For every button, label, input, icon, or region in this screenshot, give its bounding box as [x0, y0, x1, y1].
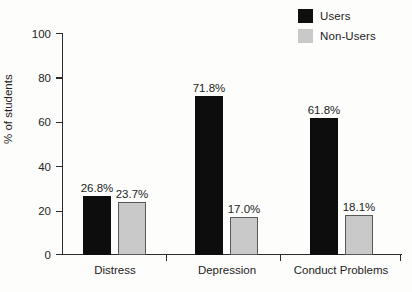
bar-value-depression-users: 71.8% [193, 82, 226, 94]
bar-value-distress-non-users: 23.7% [116, 188, 149, 200]
legend-label-users: Users [320, 10, 351, 22]
y-axis-line [62, 33, 63, 255]
x-tick-3 [400, 255, 401, 261]
plot-area: 100 80 60 40 20 0 26.8% 23.7% 71.8% [62, 33, 402, 255]
y-tick-80: 80 [56, 77, 62, 78]
y-axis-title: % of students [2, 74, 14, 144]
y-tick-0: 0 [56, 254, 62, 255]
x-axis-label-depression: Depression [198, 264, 256, 276]
bar-value-conduct-problems-users: 61.8% [308, 104, 341, 116]
y-tick-label-80: 80 [38, 72, 51, 84]
y-tick-100: 100 [56, 33, 62, 34]
x-axis-label-conduct-problems: Conduct Problems [294, 264, 389, 276]
y-tick-label-100: 100 [32, 28, 51, 40]
bar-depression-users: 71.8% [195, 96, 223, 255]
y-tick-label-40: 40 [38, 161, 51, 173]
bar-chart: Users Non-Users % of students 100 80 60 … [0, 0, 412, 292]
x-tick-1 [166, 255, 167, 261]
y-tick-label-60: 60 [38, 116, 51, 128]
bar-conduct-problems-users: 61.8% [310, 118, 338, 255]
x-axis-label-distress: Distress [94, 264, 136, 276]
y-tick-20: 20 [56, 211, 62, 212]
bar-conduct-problems-non-users: 18.1% [345, 215, 373, 255]
y-tick-label-20: 20 [38, 205, 51, 217]
y-tick-40: 40 [56, 166, 62, 167]
y-tick-60: 60 [56, 122, 62, 123]
legend-item-users: Users [298, 8, 376, 23]
bar-distress-users: 26.8% [83, 196, 111, 256]
y-tick-label-0: 0 [45, 249, 51, 261]
bar-distress-non-users: 23.7% [118, 202, 146, 255]
bar-value-depression-non-users: 17.0% [228, 203, 261, 215]
bar-value-distress-users: 26.8% [81, 182, 114, 194]
bar-value-conduct-problems-non-users: 18.1% [343, 201, 376, 213]
users-swatch-icon [298, 9, 313, 23]
x-tick-2 [280, 255, 281, 261]
bar-depression-non-users: 17.0% [230, 217, 258, 255]
